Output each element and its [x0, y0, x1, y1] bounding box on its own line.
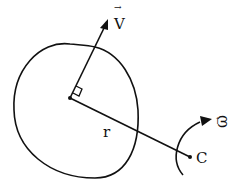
svg-text:V: V — [113, 15, 126, 33]
radius-line — [70, 98, 190, 157]
velocity-vector — [70, 26, 105, 98]
omega-vector-arrow-icon: ↑ — [214, 116, 222, 126]
rotation-arrowhead-icon — [200, 116, 212, 126]
center-label: C — [196, 149, 207, 167]
radius-label: r — [103, 123, 111, 141]
velocity-arrowhead-icon — [100, 19, 108, 30]
svg-text:→: → — [114, 2, 122, 12]
rotation-center-point — [188, 155, 192, 159]
rotation-diagram: V → r ω ↑ C — [0, 0, 239, 188]
body-outline — [14, 44, 138, 178]
velocity-label: V → — [113, 2, 126, 33]
